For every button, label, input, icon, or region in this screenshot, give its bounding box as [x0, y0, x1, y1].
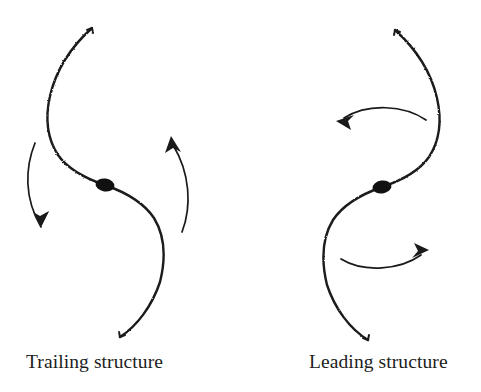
spiral-structure-diagram	[0, 0, 481, 392]
trailing-upper-arm	[47, 28, 105, 185]
caption-leading-structure: Leading structure	[309, 352, 448, 372]
leading-nucleus	[372, 179, 393, 195]
panel-leading	[323, 30, 439, 340]
figure-root: Trailing structure Leading structure	[0, 0, 481, 392]
trailing-right-rotation-arrow	[165, 136, 188, 232]
leading-bottom-rotation-arrow	[341, 243, 429, 268]
leading-lower-arm	[323, 187, 382, 340]
caption-trailing-structure: Trailing structure	[26, 352, 163, 372]
leading-top-rotation-arrow	[336, 108, 426, 130]
trailing-lower-arm	[105, 185, 164, 337]
trailing-left-rotation-arrow	[28, 143, 49, 227]
trailing-nucleus	[95, 177, 116, 193]
panel-trailing	[28, 28, 188, 337]
